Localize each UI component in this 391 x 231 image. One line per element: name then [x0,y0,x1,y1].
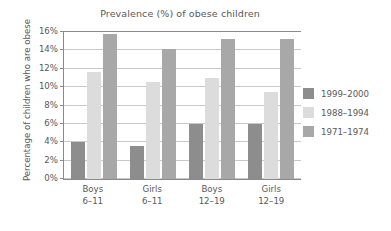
bar-groups [64,32,301,179]
bar [103,34,117,179]
plot-area: 0%2%4%6%8%10%12%14%16% [63,32,301,180]
chart-title: Prevalence (%) of obese children [60,8,300,19]
bar [264,92,278,179]
bar [205,78,219,179]
legend-swatch [303,126,314,137]
x-axis-category-label: Boys6–11 [63,184,123,207]
bar-group [183,32,242,179]
x-axis-category-label: Girls12–19 [242,184,302,207]
y-axis-title: Percentage of children who are obese [22,10,32,190]
bar [162,49,176,179]
x-axis-label-line1: Girls [242,184,302,196]
legend-label: 1988–1994 [321,108,369,118]
x-axis-label-line2: 6–11 [63,196,123,208]
bar [221,39,235,179]
legend: 1999–20001988–19941971–1974 [303,84,369,141]
y-axis-tick-label: 8% [44,100,58,110]
bar [146,82,160,179]
y-axis-tick-label: 6% [44,118,58,128]
bar-group [64,32,123,179]
legend-item: 1999–2000 [303,84,369,103]
y-axis-tick-label: 12% [39,63,58,73]
legend-label: 1999–2000 [321,89,369,99]
bar [248,124,262,179]
x-axis-labels: Boys6–11Girls6–11Boys12–19Girls12–19 [63,184,301,207]
x-axis-label-line2: 12–19 [242,196,302,208]
legend-item: 1971–1974 [303,122,369,141]
bar-group [123,32,182,179]
x-axis-label-line2: 6–11 [123,196,183,208]
x-axis-category-label: Boys12–19 [182,184,242,207]
y-axis-tick-label: 16% [39,26,58,36]
legend-swatch [303,107,314,118]
chart-figure: Prevalence (%) of obese children Percent… [0,0,391,231]
bar [87,72,101,179]
y-axis-tick-label: 10% [39,81,58,91]
legend-swatch [303,88,314,99]
y-axis-tick-label: 14% [39,44,58,54]
x-axis-label-line1: Girls [123,184,183,196]
bar [130,146,144,179]
bar [71,142,85,179]
x-axis-label-line2: 12–19 [182,196,242,208]
bar [189,124,203,179]
y-axis-tick-label: 4% [44,136,58,146]
bar [280,39,294,179]
y-axis-tick-label: 0% [44,173,58,183]
x-axis-label-line1: Boys [63,184,123,196]
bar-group [242,32,301,179]
legend-item: 1988–1994 [303,103,369,122]
x-axis-label-line1: Boys [182,184,242,196]
y-axis-tick-label: 2% [44,155,58,165]
legend-label: 1971–1974 [321,127,369,137]
x-axis-category-label: Girls6–11 [123,184,183,207]
